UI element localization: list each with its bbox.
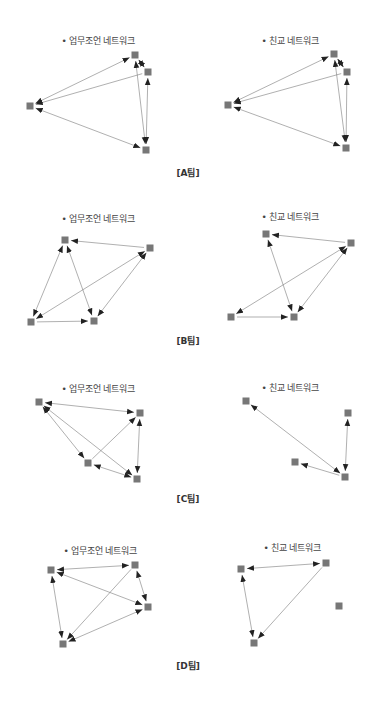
- friendship-network-title: • 친교 네트워크: [263, 541, 320, 554]
- friendship-network-title: • 친교 네트워크: [261, 381, 318, 394]
- team-label: [A팀]: [176, 166, 199, 179]
- directed-tie-arrow: [37, 321, 88, 322]
- member-node: [60, 641, 67, 648]
- member-node: [291, 314, 298, 321]
- member-node: [62, 237, 69, 244]
- bidirectional-tie-arrow: [137, 571, 146, 602]
- member-node: [137, 410, 144, 417]
- member-node: [85, 460, 92, 467]
- friendship-network-title: • 친교 네트워크: [261, 34, 318, 47]
- bidirectional-tie-arrow: [33, 246, 62, 317]
- member-node: [263, 231, 270, 238]
- bidirectional-tie-arrow: [345, 419, 347, 471]
- work-network-graph: [52, 565, 146, 641]
- bidirectional-tie-arrow: [338, 59, 344, 67]
- member-node: [132, 562, 139, 569]
- bidirectional-tie-arrow: [67, 246, 92, 316]
- directed-tie-arrow: [71, 241, 144, 248]
- member-node: [143, 147, 150, 154]
- member-node: [323, 560, 330, 567]
- member-node: [331, 51, 338, 58]
- friend-network-graph: [233, 57, 347, 146]
- bidirectional-tie-arrow: [234, 107, 341, 146]
- member-node: [343, 145, 350, 152]
- bidirectional-tie-arrow: [146, 78, 148, 144]
- member-node: [132, 52, 139, 59]
- bidirectional-tie-arrow: [139, 60, 145, 67]
- member-node: [344, 69, 351, 76]
- bidirectional-tie-arrow: [346, 78, 347, 142]
- bidirectional-tie-arrow: [136, 61, 146, 144]
- member-node: [345, 410, 352, 417]
- team-label: [D팀]: [176, 659, 200, 672]
- bidirectional-tie-arrow: [247, 563, 320, 568]
- friendship-network-title: • 친교 네트워크: [261, 210, 318, 223]
- directed-tie-arrow: [234, 74, 341, 104]
- friend-network-graph: [251, 405, 348, 476]
- bidirectional-tie-arrow: [268, 240, 292, 312]
- directed-tie-arrow: [36, 74, 142, 105]
- member-node: [147, 245, 154, 252]
- work-advice-network-title: • 업무조언 네트워크: [62, 382, 135, 395]
- directed-tie-arrow: [258, 567, 322, 638]
- bidirectional-tie-arrow: [236, 246, 346, 314]
- member-node: [243, 398, 250, 405]
- member-node: [28, 319, 35, 326]
- member-node: [225, 102, 232, 109]
- member-node: [238, 566, 245, 573]
- directed-tie-arrow: [301, 464, 340, 476]
- bidirectional-tie-arrow: [35, 58, 129, 104]
- member-node: [145, 69, 152, 76]
- network-diagrams-canvas: [0, 0, 376, 703]
- friend-network-graph: [242, 563, 322, 638]
- member-node: [48, 567, 55, 574]
- directed-tie-arrow: [92, 417, 135, 459]
- bidirectional-tie-arrow: [137, 419, 139, 473]
- bidirectional-tie-arrow: [57, 572, 143, 605]
- member-node: [228, 314, 235, 321]
- member-node: [91, 318, 98, 325]
- member-node: [27, 103, 34, 110]
- work-advice-network-title: • 업무조언 네트워크: [64, 544, 137, 557]
- work-network-graph: [33, 241, 146, 322]
- member-node: [342, 474, 349, 481]
- bidirectional-tie-arrow: [94, 465, 132, 477]
- work-advice-network-title: • 업무조언 네트워크: [62, 212, 135, 225]
- bidirectional-tie-arrow: [45, 403, 134, 413]
- member-node: [145, 604, 152, 611]
- bidirectional-tie-arrow: [52, 576, 62, 638]
- bidirectional-tie-arrow: [36, 251, 145, 319]
- member-node: [348, 240, 355, 247]
- directed-tie-arrow: [272, 235, 345, 243]
- bidirectional-tie-arrow: [36, 108, 141, 148]
- member-node: [36, 399, 43, 406]
- team-label: [B팀]: [176, 334, 199, 347]
- work-advice-network-title: • 업무조언 네트워크: [62, 34, 135, 47]
- member-node: [251, 640, 258, 647]
- team-label: [C팀]: [177, 492, 200, 505]
- friend-network-graph: [236, 235, 347, 317]
- bidirectional-tie-arrow: [98, 253, 147, 316]
- bidirectional-tie-arrow: [57, 565, 129, 569]
- bidirectional-tie-arrow: [242, 575, 253, 637]
- work-network-graph: [35, 58, 147, 148]
- member-node: [134, 476, 141, 483]
- bidirectional-tie-arrow: [233, 57, 328, 103]
- member-node: [292, 459, 299, 466]
- bidirectional-tie-arrow: [298, 248, 348, 312]
- member-node: [336, 603, 343, 610]
- nodes-layer: [27, 51, 355, 648]
